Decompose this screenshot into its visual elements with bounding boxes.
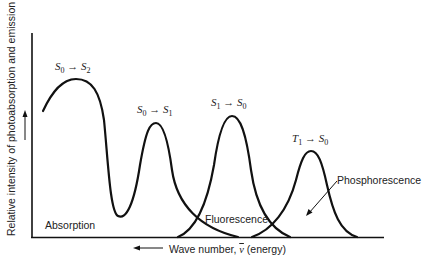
y-axis-label: Relative intensity of photoabsorption an… — [5, 26, 19, 236]
transition-label-t1-s0: T1 → S0 — [292, 132, 328, 147]
transition-label-s0-s2: S0 → S2 — [55, 60, 91, 75]
absorption-label: Absorption — [45, 219, 95, 231]
transition-label-s0-s1: S0 → S1 — [137, 103, 173, 118]
phosphorescence-label: Phosphorescence — [337, 174, 421, 186]
phosphorescence-pointer-arrow-icon — [306, 181, 337, 216]
x-axis-left-arrow-icon — [133, 246, 163, 251]
transition-label-s1-s0: S1 → S0 — [211, 96, 247, 111]
y-axis-up-arrow-icon — [23, 110, 28, 140]
fluorescence-label: Fluorescence — [205, 213, 268, 225]
x-axis-label: Wave number, ν (energy) — [169, 243, 286, 255]
